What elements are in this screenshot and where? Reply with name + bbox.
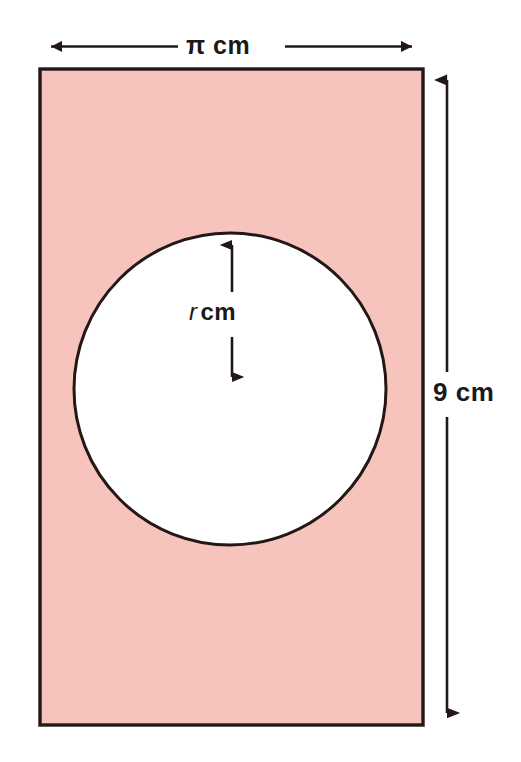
width-dimension-label: π cm	[186, 31, 250, 60]
width-label-value: π	[186, 31, 206, 59]
shaded-rectangle-fill	[40, 69, 423, 725]
circle-outline	[74, 233, 386, 545]
geometry-figure: π cm 9 cm rcm	[0, 0, 521, 762]
height-label-value: 9	[433, 377, 448, 407]
width-label-unit: cm	[213, 31, 250, 59]
radius-dimension-label: rcm	[189, 298, 236, 326]
radius-label-unit: cm	[201, 298, 237, 325]
height-dimension-label: 9 cm	[433, 377, 494, 408]
height-label-unit: cm	[456, 377, 495, 407]
radius-label-value: r	[189, 298, 201, 325]
